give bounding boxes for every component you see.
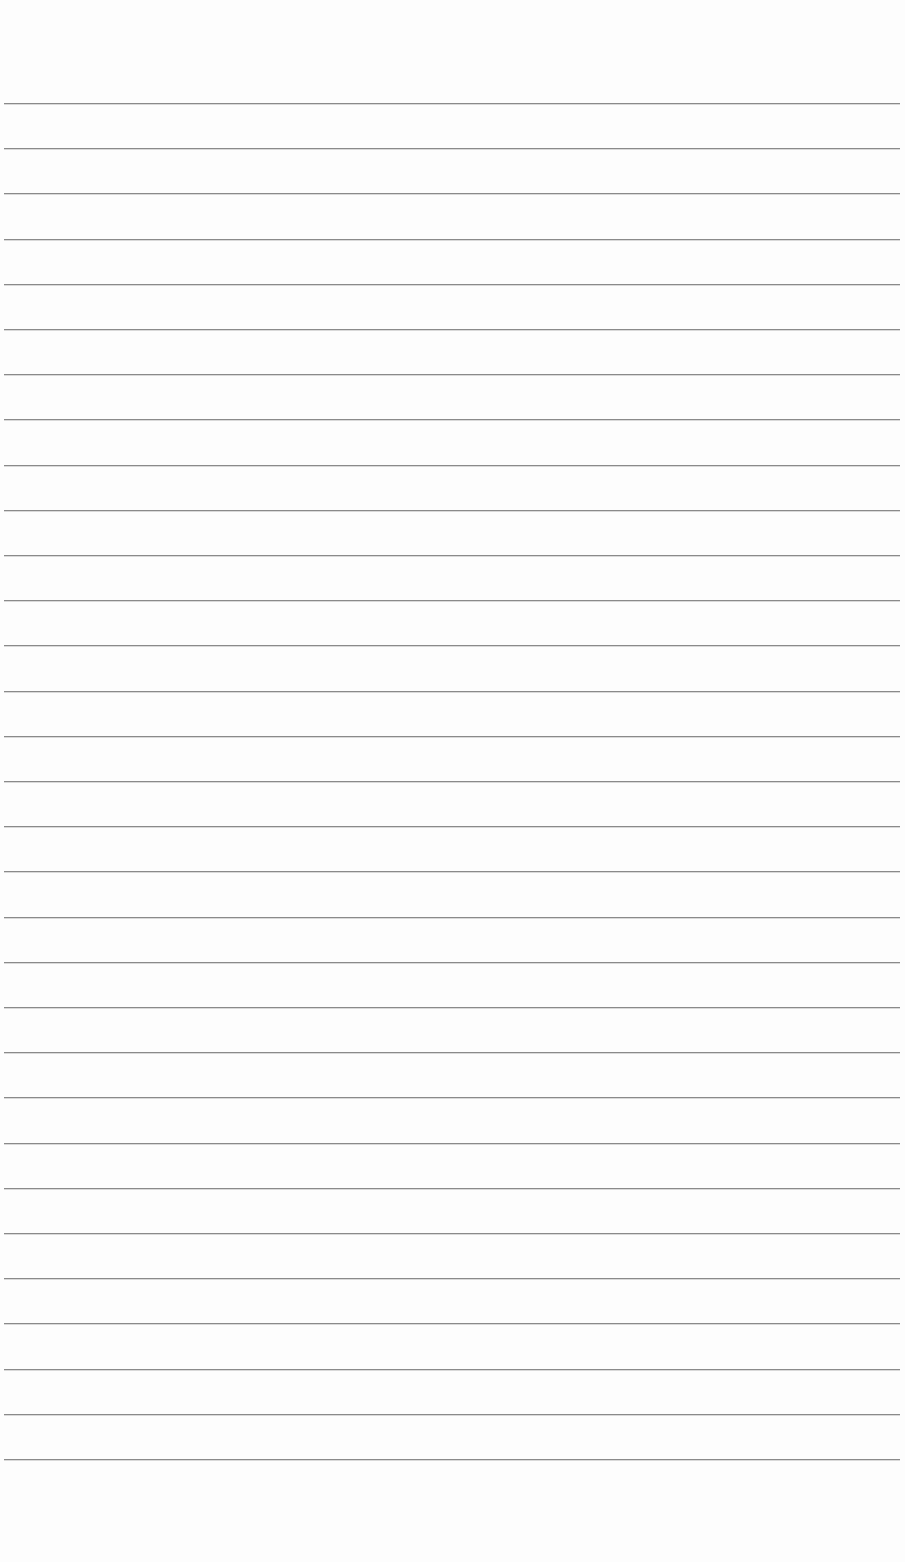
ruled-line [4, 645, 900, 646]
ruled-line [4, 239, 900, 240]
ruled-line [4, 781, 900, 782]
ruled-line [4, 1414, 900, 1415]
ruled-line [4, 374, 900, 375]
ruled-line [4, 1278, 900, 1279]
ruled-line [4, 329, 900, 330]
ruled-line [4, 1097, 900, 1098]
ruled-line [4, 917, 900, 918]
ruled-line [4, 193, 900, 194]
ruled-line [4, 555, 900, 556]
ruled-line [4, 103, 900, 104]
ruled-line [4, 1052, 900, 1053]
ruled-line [4, 1369, 900, 1370]
ruled-line [4, 1007, 900, 1008]
ruled-line [4, 1143, 900, 1144]
ruled-line [4, 962, 900, 963]
ruled-line [4, 284, 900, 285]
ruled-line [4, 871, 900, 872]
ruled-line [4, 691, 900, 692]
ruled-line [4, 600, 900, 601]
ruled-line [4, 826, 900, 827]
ruled-line [4, 1323, 900, 1324]
ruled-line [4, 1188, 900, 1189]
ruled-line [4, 510, 900, 511]
ruled-line [4, 1459, 900, 1460]
lined-paper-sheet [0, 0, 905, 1562]
ruled-line [4, 736, 900, 737]
ruled-line [4, 465, 900, 466]
ruled-line [4, 148, 900, 149]
ruled-line [4, 1233, 900, 1234]
ruled-line [4, 419, 900, 420]
